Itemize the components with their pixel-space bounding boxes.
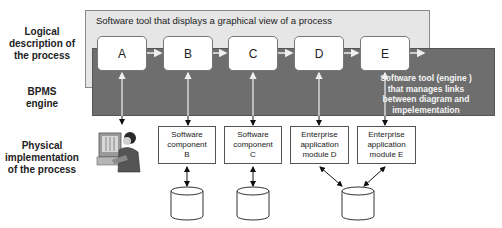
impl-line: Software [159, 130, 215, 140]
person-at-computer-icon [97, 132, 140, 172]
impl-line: component [225, 140, 281, 150]
software-component-b: Software component B [158, 126, 216, 164]
engine-links [122, 73, 385, 116]
process-step-e: E [360, 36, 410, 71]
impl-arrows [122, 116, 385, 125]
process-step-b: B [163, 36, 213, 71]
impl-line: Enterprise [358, 130, 415, 140]
enterprise-module-d: Enterprise application module D [290, 126, 349, 164]
step-label: A [118, 47, 126, 61]
step-label: E [381, 47, 389, 61]
database-links [187, 167, 385, 186]
process-step-c: C [228, 36, 278, 71]
database-cylinder-icon [237, 187, 269, 220]
impl-line: C [225, 150, 281, 160]
impl-line: component [159, 140, 215, 150]
impl-line: module E [358, 150, 415, 160]
process-step-d: D [294, 36, 344, 71]
impl-line: module D [291, 150, 348, 160]
impl-line: Software [225, 130, 281, 140]
enterprise-module-e: Enterprise application module E [357, 126, 416, 164]
step-label: B [184, 47, 192, 61]
process-step-a: A [97, 36, 147, 71]
impl-line: Enterprise [291, 130, 348, 140]
step-label: D [315, 47, 324, 61]
impl-line: B [159, 150, 215, 160]
step-label: C [249, 47, 258, 61]
impl-line: application [291, 140, 348, 150]
connectors-layer [0, 0, 502, 228]
impl-line: application [358, 140, 415, 150]
database-cylinder-icon [342, 187, 374, 220]
database-cylinder-icon [171, 187, 203, 220]
software-component-c: Software component C [224, 126, 282, 164]
